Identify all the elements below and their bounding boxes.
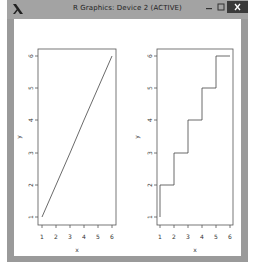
x-tick-label: 1 bbox=[158, 233, 162, 240]
y-tick-label: 3 bbox=[146, 151, 153, 155]
x-tick-label: 6 bbox=[110, 233, 114, 240]
y-axis bbox=[154, 56, 157, 217]
step-line bbox=[160, 56, 230, 217]
x-axis bbox=[42, 225, 112, 228]
x-tick-label: 1 bbox=[40, 233, 44, 240]
y-tick-label: 3 bbox=[27, 151, 34, 155]
plot-canvas: 1 2 3 4 5 6 y 1 bbox=[14, 19, 241, 256]
x-axis-label: x bbox=[193, 246, 197, 253]
x-tick-label: 4 bbox=[82, 233, 86, 240]
x-tick-label: 5 bbox=[214, 233, 218, 240]
x-tick-label: 2 bbox=[54, 233, 58, 240]
x-tick-label: 3 bbox=[68, 233, 72, 240]
y-tick-label: 4 bbox=[146, 118, 153, 122]
y-tick-label: 6 bbox=[27, 54, 34, 58]
title-bar[interactable]: R Graphics: Device 2 (ACTIVE) bbox=[7, 0, 248, 19]
line-plot: 1 2 3 4 5 6 y 1 bbox=[15, 49, 116, 253]
y-axis-label: y bbox=[15, 135, 23, 139]
plots-svg: 1 2 3 4 5 6 y 1 bbox=[14, 19, 241, 256]
x-axis bbox=[160, 225, 230, 228]
x-axis-label: x bbox=[75, 246, 79, 253]
step-plot: 1 2 3 4 5 6 y 1 2 bbox=[133, 49, 233, 253]
y-axis-label: y bbox=[133, 135, 141, 139]
data-line bbox=[42, 56, 112, 217]
y-tick-label: 2 bbox=[146, 183, 153, 187]
y-tick-label: 2 bbox=[27, 183, 34, 187]
y-tick-label: 4 bbox=[27, 118, 34, 122]
x-tick-label: 6 bbox=[228, 233, 232, 240]
y-axis bbox=[35, 56, 38, 217]
x-tick-label: 2 bbox=[172, 233, 176, 240]
r-graphics-window: R Graphics: Device 2 (ACTIVE) bbox=[7, 0, 248, 262]
x-tick-label: 5 bbox=[96, 233, 100, 240]
close-icon[interactable] bbox=[227, 1, 248, 13]
y-tick-label: 5 bbox=[146, 86, 153, 90]
y-tick-label: 6 bbox=[146, 54, 153, 58]
maximize-icon[interactable] bbox=[215, 1, 227, 13]
y-tick-label: 1 bbox=[146, 215, 153, 219]
x-tick-label: 3 bbox=[186, 233, 190, 240]
y-tick-label: 5 bbox=[27, 86, 34, 90]
y-tick-label: 1 bbox=[27, 215, 34, 219]
x-tick-label: 4 bbox=[200, 233, 204, 240]
minimize-icon[interactable] bbox=[203, 1, 215, 13]
plot-box bbox=[157, 49, 233, 225]
